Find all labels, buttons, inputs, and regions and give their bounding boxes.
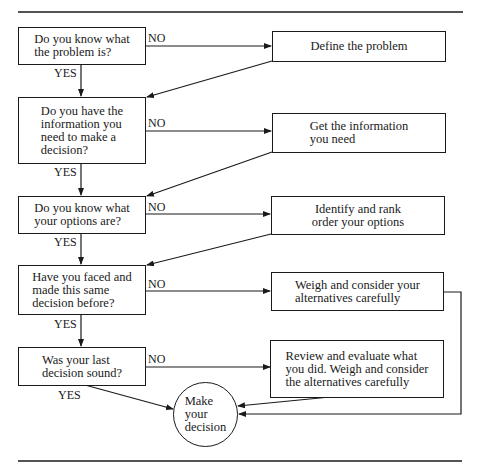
question-box-2: Do you have the information you need to … bbox=[18, 97, 146, 164]
no-label-4: NO bbox=[148, 278, 165, 290]
question-text: Have you faced and made this same decisi… bbox=[32, 271, 132, 310]
question-box-1: Do you know what the problem is? bbox=[18, 27, 146, 65]
no-label-2: NO bbox=[148, 117, 165, 129]
yes-label-2: YES bbox=[54, 166, 77, 178]
question-text: Do you have the information you need to … bbox=[41, 105, 123, 157]
action-text: Identify and rank order your options bbox=[312, 203, 404, 229]
action-text: Review and evaluate what you did. Weigh … bbox=[286, 350, 429, 389]
action-box-1: Define the problem bbox=[272, 31, 446, 62]
no-label-3: NO bbox=[148, 201, 165, 213]
no-label-5: NO bbox=[148, 353, 165, 365]
question-text: Do you know what the problem is? bbox=[34, 33, 129, 59]
action-box-3: Identify and rank order your options bbox=[271, 196, 445, 235]
yes-label-1: YES bbox=[54, 67, 77, 79]
action-text: Get the information you need bbox=[310, 120, 409, 146]
yes-label-4: YES bbox=[54, 318, 77, 330]
question-box-3: Do you know what your options are? bbox=[18, 196, 146, 234]
action-box-2: Get the information you need bbox=[272, 113, 446, 153]
make-decision-terminal: Make your decision bbox=[173, 382, 238, 447]
question-box-5: Was your last decision sound? bbox=[18, 347, 146, 386]
yes-label-3: YES bbox=[54, 236, 77, 248]
no-label-1: NO bbox=[148, 32, 165, 44]
action-text: Weigh and consider your alternatives car… bbox=[295, 279, 420, 305]
yes-label-5: YES bbox=[58, 389, 81, 401]
question-text: Do you know what your options are? bbox=[34, 202, 129, 228]
question-box-4: Have you faced and made this same decisi… bbox=[18, 265, 146, 315]
action-box-5: Review and evaluate what you did. Weigh … bbox=[270, 340, 444, 398]
action-box-4: Weigh and consider your alternatives car… bbox=[271, 272, 444, 311]
question-text: Was your last decision sound? bbox=[42, 354, 122, 380]
terminal-text: Make your decision bbox=[185, 395, 227, 434]
action-text: Define the problem bbox=[310, 40, 407, 53]
